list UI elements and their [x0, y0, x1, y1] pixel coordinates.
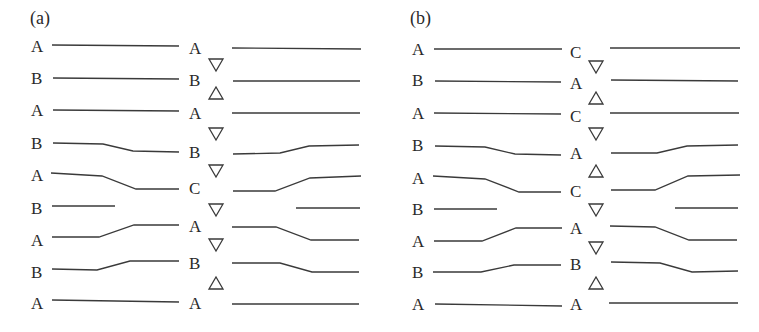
middle-label: A: [189, 294, 202, 313]
left-label: A: [412, 169, 425, 188]
left-segment-bent: [52, 225, 179, 237]
down-triangle-icon: [209, 59, 223, 71]
left-label: A: [412, 232, 425, 251]
left-segment-bent: [435, 146, 561, 155]
left-label: B: [412, 263, 423, 282]
left-label: B: [31, 263, 42, 282]
panel-b: (b) A B A B A B A B A C A C A C A B A: [410, 8, 740, 314]
middle-label: C: [570, 43, 581, 62]
panel-b-label: (b): [410, 8, 431, 29]
middle-label: B: [570, 255, 581, 274]
left-label: B: [31, 134, 42, 153]
down-triangle-icon: [589, 242, 603, 254]
middle-label: B: [189, 254, 200, 273]
left-segment-bent: [434, 228, 562, 241]
middle-label: C: [189, 179, 200, 198]
left-label: B: [31, 199, 42, 218]
right-segment-bent: [611, 262, 738, 272]
left-label: A: [31, 294, 44, 313]
up-triangle-icon: [589, 92, 603, 104]
left-segment: [52, 300, 179, 302]
middle-label: A: [570, 219, 583, 238]
left-label: A: [31, 231, 44, 250]
down-triangle-icon: [589, 204, 603, 216]
middle-label: A: [570, 295, 583, 314]
left-segment: [53, 110, 179, 111]
left-segment-bent: [433, 176, 561, 192]
right-segment-bent: [610, 226, 737, 240]
left-label: B: [412, 71, 423, 90]
right-segment-bent: [232, 227, 359, 240]
left-segment: [435, 304, 562, 306]
down-triangle-icon: [209, 239, 223, 251]
left-label: A: [412, 104, 425, 123]
middle-label: C: [570, 182, 581, 201]
left-label: B: [412, 200, 423, 219]
left-label: A: [31, 101, 44, 120]
right-segment-bent: [233, 145, 359, 154]
down-triangle-icon: [589, 61, 603, 73]
down-triangle-icon: [589, 128, 603, 140]
sequence-alignment-diagram: (a) A B A B A B A B A A B A B C A B A: [0, 0, 759, 332]
left-label: A: [31, 37, 44, 56]
panel-a-label: (a): [30, 8, 50, 29]
middle-label: A: [189, 217, 202, 236]
right-segment-bent: [611, 175, 740, 190]
left-segment: [52, 45, 179, 46]
middle-label: C: [570, 107, 581, 126]
left-label: A: [412, 295, 425, 314]
left-segment-bent: [52, 261, 179, 270]
right-segment: [232, 48, 361, 49]
left-label: B: [31, 69, 42, 88]
middle-label: A: [189, 104, 202, 123]
left-label: A: [31, 166, 44, 185]
middle-label: A: [570, 74, 583, 93]
middle-label: A: [570, 144, 583, 163]
left-label: B: [412, 136, 423, 155]
middle-label: B: [189, 143, 200, 162]
up-triangle-icon: [589, 165, 603, 177]
down-triangle-icon: [209, 128, 223, 140]
right-segment-bent: [233, 176, 361, 191]
right-segment-bent: [611, 145, 738, 153]
left-segment-bent: [51, 173, 179, 189]
left-segment: [53, 78, 179, 79]
down-triangle-icon: [209, 204, 223, 216]
left-segment-bent: [53, 143, 179, 152]
left-label: A: [412, 40, 425, 59]
middle-label: A: [189, 39, 202, 58]
up-triangle-icon: [589, 277, 603, 289]
up-triangle-icon: [209, 277, 223, 289]
left-segment-bent: [433, 265, 561, 272]
left-segment: [435, 81, 561, 82]
down-triangle-icon: [209, 165, 223, 177]
right-segment: [611, 80, 738, 81]
left-segment: [434, 113, 561, 114]
right-segment-bent: [232, 263, 359, 272]
up-triangle-icon: [209, 87, 223, 99]
middle-label: B: [189, 71, 200, 90]
panel-a: (a) A B A B A B A B A A B A B C A B A: [30, 8, 361, 313]
